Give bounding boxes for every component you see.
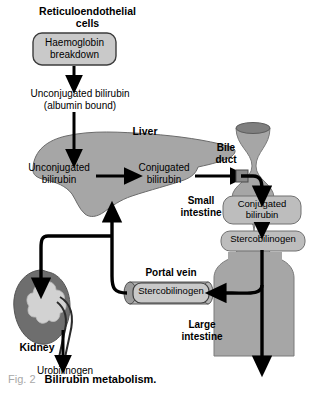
unconjugated-bilirubin-top-label: Unconjugated bilirubin [0, 89, 160, 100]
reticuloendothelial-label: Reticuloendothelial [0, 6, 175, 17]
liver-label: Liver [115, 126, 175, 137]
small-intestine-line1: Small [176, 196, 226, 207]
figure-canvas: Reticuloendothelial cells Haemoglobin br… [0, 0, 314, 393]
liver-conjugated-line1: Conjugated [130, 163, 198, 174]
large-intestine-line1: Large [174, 320, 230, 331]
liver-unconjugated-line2: bilirubin [22, 175, 96, 186]
bile-duct-line1: Bile [206, 143, 246, 154]
albumin-bound-label: (albumin bound) [0, 101, 160, 112]
vein-stercobilinogen-label: Stercobilinogen [133, 286, 209, 296]
portal-vein-label: Portal vein [128, 268, 214, 279]
haemoglobin-label: Haemoglobin [33, 38, 116, 49]
arrow-portalvein-to-liver [112, 212, 127, 293]
liver-conjugated-line2: bilirubin [130, 175, 198, 186]
bile-duct-line2: duct [206, 155, 246, 166]
gut-conjugated-line2: bilirubin [223, 210, 301, 220]
breakdown-label: breakdown [33, 50, 116, 61]
duodenum-cap [236, 123, 270, 134]
gut-stercobilinogen-label: Stercobilinogen [221, 234, 305, 244]
small-intestine-line2: intestine [176, 208, 226, 219]
caption-title: Bilirubin metabolism. [45, 373, 157, 385]
liver-unconjugated-line1: Unconjugated [22, 163, 96, 174]
intestine-junction [228, 252, 282, 270]
caption-prefix: Fig. 2 [8, 373, 36, 385]
kidney-label: Kidney [4, 342, 70, 353]
cells-label: cells [0, 18, 175, 29]
figure-caption: Fig. 2 Bilirubin metabolism. [8, 373, 156, 385]
large-intestine-line2: intestine [174, 332, 230, 343]
gut-conjugated-line1: Conjugated [223, 199, 301, 209]
